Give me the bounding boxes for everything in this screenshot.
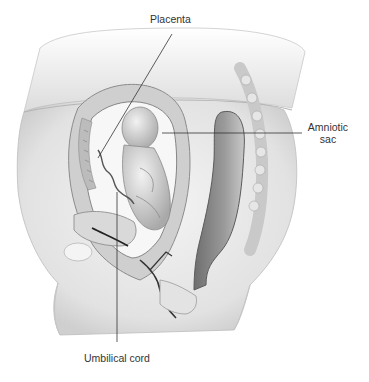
placenta-label-text: Placenta — [150, 13, 191, 25]
amniotic-sac-label-line1: Amniotic — [300, 121, 356, 133]
umbilical-cord-label: Umbilical cord — [84, 352, 150, 364]
anatomy-diagram: Placenta Amniotic sac Umbilical cord — [0, 0, 369, 382]
placenta-label: Placenta — [150, 13, 191, 25]
uterus-illustration — [0, 0, 369, 382]
umbilical-cord-label-text: Umbilical cord — [84, 352, 150, 364]
amniotic-sac-label: Amniotic sac — [300, 121, 356, 145]
amniotic-sac-label-line2: sac — [300, 133, 356, 145]
